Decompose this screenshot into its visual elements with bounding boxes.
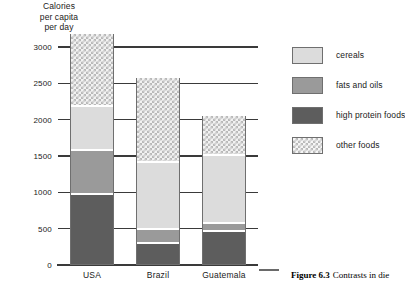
bar-segment-guatemala-protein[interactable] <box>203 231 245 264</box>
y-tick-label-1500: 1500 <box>33 152 52 161</box>
legend-label-other: other foods <box>336 140 380 150</box>
bar-segment-guatemala-fats[interactable] <box>203 223 245 231</box>
y-tick-label-500: 500 <box>38 224 52 233</box>
y-tick-label-2000: 2000 <box>33 115 52 124</box>
bar-segment-usa-fats[interactable] <box>71 150 113 194</box>
bar-guatemala[interactable] <box>202 116 246 265</box>
bar-segment-usa-protein[interactable] <box>71 194 113 264</box>
bar-segment-guatemala-other[interactable] <box>203 115 245 155</box>
legend-swatch-cereals <box>292 47 323 64</box>
chart-plot-area: 050010001500200025003000 USABrazilGuatem… <box>58 20 258 266</box>
legend-swatch-fats <box>292 77 323 94</box>
legend-label-cereals: cereals <box>336 50 364 60</box>
x-label-brazil: Brazil <box>120 270 196 280</box>
y-tick-label-0: 0 <box>47 261 52 270</box>
figure-caption: Figure 6.3Contrasts in die <box>291 270 389 280</box>
bar-segment-brazil-cereals[interactable] <box>137 162 179 229</box>
y-axis-title-line-1: Calories <box>16 1 102 12</box>
bar-segment-brazil-fats[interactable] <box>137 229 179 243</box>
bar-segment-guatemala-cereals[interactable] <box>203 155 245 223</box>
y-tick-label-1000: 1000 <box>33 188 52 197</box>
bar-segment-brazil-other[interactable] <box>137 77 179 163</box>
figure-number: Figure 6.3 <box>291 270 330 280</box>
bar-segment-usa-other[interactable] <box>71 33 113 106</box>
bar-segment-usa-cereals[interactable] <box>71 106 113 150</box>
bar-segment-brazil-protein[interactable] <box>137 243 179 264</box>
bar-brazil[interactable] <box>136 78 180 265</box>
x-label-usa: USA <box>54 270 130 280</box>
figure-caption-text: Contrasts in die <box>333 270 390 280</box>
legend-swatch-protein <box>292 107 323 124</box>
legend-label-protein: high protein foods <box>336 110 405 120</box>
x-label-guatemala: Guatemala <box>186 270 262 280</box>
bar-usa[interactable] <box>70 34 114 265</box>
y-tick-label-3000: 3000 <box>33 43 52 52</box>
legend-swatch-other <box>292 137 323 154</box>
caption-rule <box>259 269 279 271</box>
legend-label-fats: fats and oils <box>336 80 383 90</box>
y-tick-label-2500: 2500 <box>33 79 52 88</box>
